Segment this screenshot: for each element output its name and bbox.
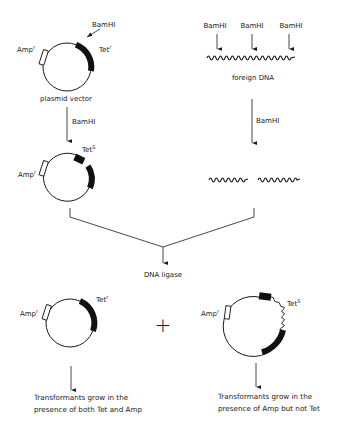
plasmid-vector: Ampr Tetr BamHI plasmid vector [17,21,115,103]
amp-gene-box [42,304,51,320]
tet-label: TetS [81,144,95,154]
foreign-digest-step: BamHI [252,99,279,143]
tet-label: TetS [286,298,300,308]
amp-label: Ampr [20,308,39,318]
plus-sign: + [155,313,172,337]
fragment-1 [209,178,248,182]
amp-label: Ampr [17,44,36,54]
amp-label: Ampr [201,308,220,318]
tet-fragment-small [73,154,85,165]
religated-plasmid: Ampr Tetr [20,294,109,347]
tet-gene-arc [76,45,91,71]
amp-gene-box [39,49,48,65]
amp-gene-box [224,306,231,320]
outcome-left: Transformants grow in the presence of bo… [33,366,142,414]
tet-fragment-small [259,292,272,301]
bamhi-step-label: BamHI [256,117,279,125]
outcome-left-line2: presence of both Tet and Amp [34,405,142,414]
plasmid-digest-step: BamHI [67,107,95,141]
foreign-dna-caption: foreign DNA [232,74,274,82]
tet-label: Tetr [98,44,112,54]
tet-fragment-large [88,166,92,188]
join-bracket: DNA ligase [70,208,254,279]
outcome-right: Transformants grow in the presence of Am… [217,363,320,413]
outcome-right-line1: Transformants grow in the [217,392,313,401]
outcome-left-line1: Transformants grow in the [33,393,129,402]
amp-gene-box [39,160,48,176]
foreign-dna: BamHI BamHI BamHI foreign DNA [203,22,302,82]
plasmid-vector-caption: plasmid vector [40,95,92,103]
tet-fragment-large [262,330,283,352]
amp-label: Ampr [18,169,37,179]
bamhi-site-arrow [87,29,100,37]
bamhi-site-label: BamHI [92,21,115,29]
recombinant-plasmid: Ampr TetS [201,292,300,356]
fragment-2 [258,178,300,182]
foreign-dna-wave [207,56,295,60]
bracket-lines [70,208,254,247]
cloning-diagram: Ampr Tetr BamHI plasmid vector BamHI Tet… [0,0,346,431]
bamhi-step-label: BamHI [72,118,95,126]
bamhi-site-label-2: BamHI [240,22,263,30]
bamhi-site-label-3: BamHI [279,22,302,30]
tet-label: Tetr [95,294,109,304]
bamhi-site-label-1: BamHI [203,22,226,30]
tet-gene-arc [80,301,94,331]
foreign-dna-insert [271,297,285,331]
dna-ligase-label: DNA ligase [144,271,182,279]
cut-plasmid: TetS Ampr [18,144,95,201]
foreign-dna-fragments [209,178,300,182]
outcome-right-line2: presence of Amp but not Tet [218,404,320,413]
